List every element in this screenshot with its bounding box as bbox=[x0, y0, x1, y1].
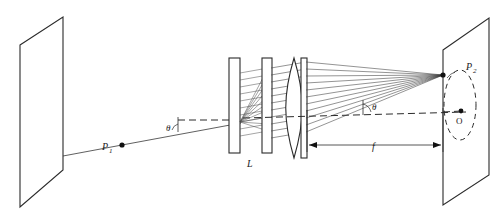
left-screen-group bbox=[20, 17, 63, 207]
source-point-marker bbox=[119, 142, 124, 147]
diagram-canvas: P 1 P 2 O L f θ θ bbox=[0, 0, 500, 221]
image-point-marker bbox=[440, 72, 445, 77]
source-point-group bbox=[119, 142, 124, 147]
source-point-label: P bbox=[101, 141, 108, 152]
incident-ray-group bbox=[63, 117, 243, 156]
converging-beam-group bbox=[306, 62, 443, 132]
focal-arrow-left bbox=[309, 142, 317, 148]
grating-plate-left bbox=[229, 58, 240, 153]
grating-plate-left-group bbox=[229, 58, 240, 153]
image-point-label: P bbox=[465, 61, 472, 72]
grating-assembly-label: L bbox=[246, 158, 253, 169]
focal-arrow-right bbox=[433, 142, 441, 148]
optic-axis bbox=[243, 112, 466, 118]
lens-mount-plate bbox=[301, 58, 307, 158]
incident-ray bbox=[122, 123, 241, 145]
image-point-subscript: 2 bbox=[473, 67, 477, 75]
grating-plate-right bbox=[262, 58, 272, 153]
origin-label: O bbox=[456, 116, 463, 126]
focal-length-label: f bbox=[372, 141, 376, 152]
angle-label-right: θ bbox=[372, 102, 377, 112]
angle-arc-left bbox=[172, 124, 178, 130]
converging-lens bbox=[286, 58, 303, 158]
object-plane-screen bbox=[20, 17, 63, 207]
angle-label-left: θ bbox=[166, 123, 171, 133]
incident-ray-extension bbox=[63, 145, 122, 156]
grating-plate-right-group bbox=[262, 58, 272, 153]
optics-diagram-figure: P 1 P 2 O L f θ θ bbox=[0, 0, 500, 221]
origin-point-marker bbox=[459, 109, 464, 114]
converging-lens-group bbox=[286, 58, 307, 158]
source-point-subscript: 1 bbox=[109, 147, 113, 155]
